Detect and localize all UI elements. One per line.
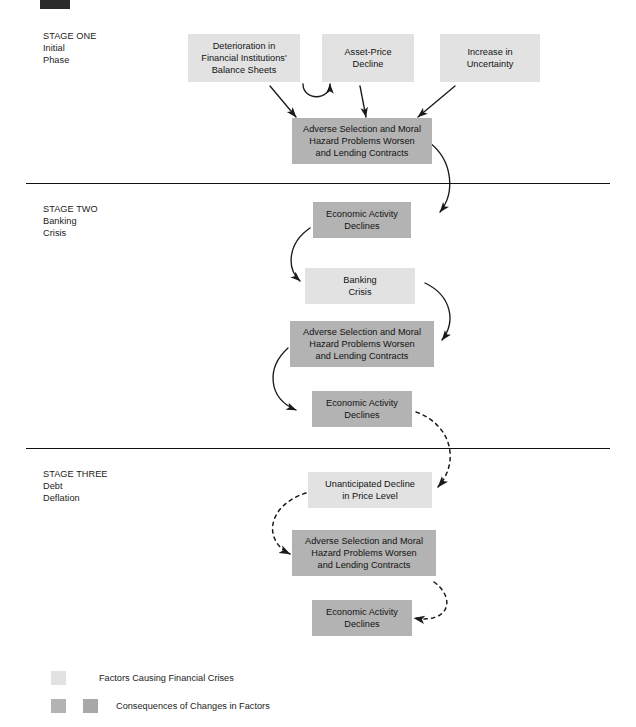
divider-stage-two-three (26, 448, 610, 449)
legend-row-factors: Factors Causing Financial Crises (51, 671, 234, 685)
node-label: Increase in Uncertainty (443, 46, 537, 70)
arrow-adverse1-to-activity1 (430, 143, 450, 212)
node-label: Adverse Selection and Moral Hazard Probl… (295, 123, 429, 160)
node-label: Economic Activity Declines (316, 208, 408, 232)
stage-label-stage-two: STAGE TWO Banking Crisis (43, 203, 98, 239)
node-label: Unanticipated Decline in Price Level (311, 478, 429, 502)
legend-swatch-consequence-a (51, 699, 66, 713)
node-label: Deterioration in Financial Institutions'… (191, 40, 297, 77)
node-label: Economic Activity Declines (315, 606, 409, 630)
node-label: Banking Crisis (308, 274, 412, 298)
financial-crisis-flowchart: STAGE ONE Initial Phase STAGE TWO Bankin… (0, 0, 636, 727)
node-adverse-selection-stage-two: Adverse Selection and Moral Hazard Probl… (290, 321, 434, 367)
legend-label-factors: Factors Causing Financial Crises (99, 672, 234, 684)
node-label: Adverse Selection and Moral Hazard Probl… (295, 535, 433, 572)
node-unanticipated-decline-price-level: Unanticipated Decline in Price Level (308, 472, 432, 508)
node-economic-activity-declines-stage-two-b: Economic Activity Declines (312, 391, 412, 427)
node-adverse-selection-stage-one: Adverse Selection and Moral Hazard Probl… (292, 118, 432, 164)
arrow-uncertainty-to-adverse (418, 86, 455, 117)
arrow-adverse3-to-activity3 (414, 582, 447, 619)
node-economic-activity-declines-stage-three: Economic Activity Declines (312, 600, 412, 636)
node-increase-in-uncertainty: Increase in Uncertainty (440, 34, 540, 82)
arrow-asset-price-hook (303, 84, 330, 97)
arrow-asset-price-to-adverse (360, 86, 366, 117)
stage-label-stage-one: STAGE ONE Initial Phase (43, 30, 96, 66)
node-label: Asset-Price Decline (325, 46, 411, 70)
stage-label-stage-three: STAGE THREE Debt Deflation (43, 468, 108, 504)
legend-swatch-consequence-b (83, 699, 98, 713)
node-adverse-selection-stage-three: Adverse Selection and Moral Hazard Probl… (292, 530, 436, 576)
corner-mark (40, 0, 70, 9)
node-deterioration-balance-sheets: Deterioration in Financial Institutions'… (188, 34, 300, 82)
arrow-deterioration-to-adverse (270, 86, 296, 117)
node-asset-price-decline: Asset-Price Decline (322, 34, 414, 82)
divider-stage-one-two (26, 183, 610, 184)
legend-swatch-factor (51, 671, 66, 685)
legend-row-consequences: Consequences of Changes in Factors (51, 699, 270, 713)
legend-label-consequences: Consequences of Changes in Factors (116, 700, 270, 712)
node-label: Adverse Selection and Moral Hazard Probl… (293, 326, 431, 363)
node-economic-activity-declines-stage-two-a: Economic Activity Declines (313, 202, 411, 238)
node-label: Economic Activity Declines (315, 397, 409, 421)
node-banking-crisis: Banking Crisis (305, 268, 415, 304)
